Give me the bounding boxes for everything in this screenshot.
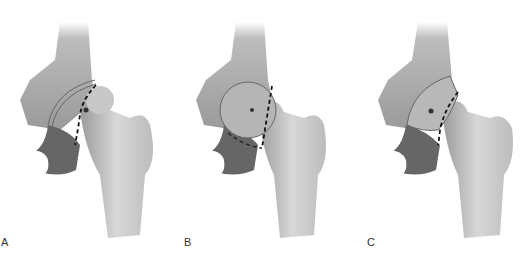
panel-label-c: C [367, 236, 375, 248]
panel-c: C [352, 0, 528, 262]
hip-joint-illustration-a [0, 0, 176, 262]
panel-a: A [0, 0, 176, 262]
panel-label-b: B [184, 236, 191, 248]
hip-joint-illustration-b [176, 0, 352, 262]
hip-joint-illustration-c [352, 0, 528, 262]
panel-label-a: A [1, 236, 8, 248]
panel-b: B [176, 0, 352, 262]
